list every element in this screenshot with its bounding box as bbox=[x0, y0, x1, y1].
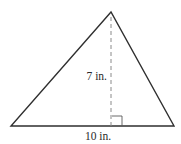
base-label: 10 in. bbox=[85, 130, 111, 142]
height-label: 7 in. bbox=[87, 70, 108, 82]
right-angle-marker bbox=[112, 116, 122, 126]
triangle-shape bbox=[11, 12, 174, 126]
triangle-diagram: 7 in. 10 in. bbox=[0, 0, 181, 144]
